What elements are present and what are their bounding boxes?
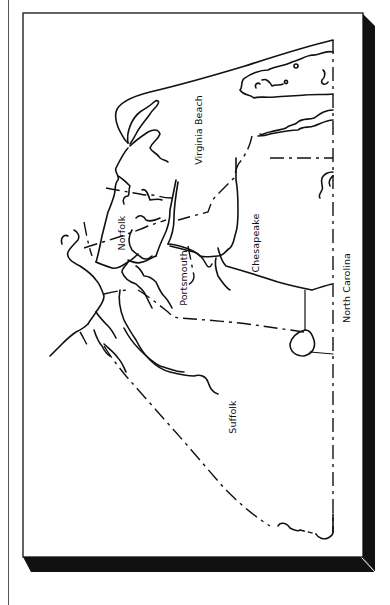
label-chesapeake: Chesapeake xyxy=(250,214,261,273)
map-illustration xyxy=(0,0,390,605)
label-north-carolina: North Carolina xyxy=(341,253,352,323)
label-virginia-beach: Virginia Beach xyxy=(193,95,204,165)
label-suffolk: Suffolk xyxy=(227,400,238,433)
frame-shadow-bottom xyxy=(23,557,375,572)
label-norfolk: Norfolk xyxy=(116,216,127,251)
label-portsmouth: Portsmouth xyxy=(178,250,189,306)
frame-shadow-right xyxy=(363,14,375,572)
